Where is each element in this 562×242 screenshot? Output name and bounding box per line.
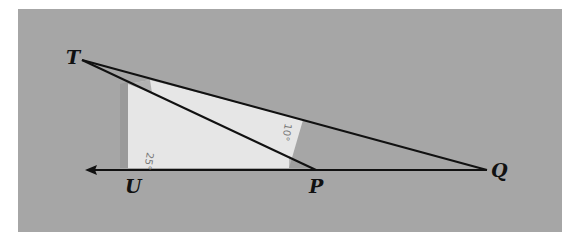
point-label-U: U <box>125 175 143 197</box>
point-label-P: P <box>308 175 324 197</box>
point-label-Q: Q <box>491 159 508 181</box>
diagram-canvas: T U P Q 25° 10° <box>0 0 562 242</box>
point-label-T: T <box>66 46 82 68</box>
paper-shadow-left <box>120 82 128 168</box>
geometry-figure: T U P Q 25° 10° <box>0 0 562 242</box>
